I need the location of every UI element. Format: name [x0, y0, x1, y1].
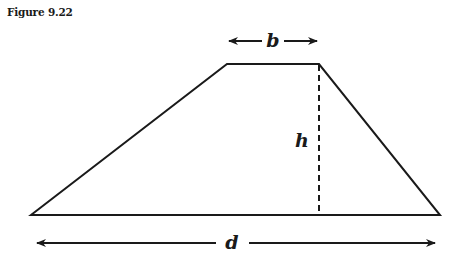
label-b: b [266, 29, 279, 51]
label-d: d [225, 231, 238, 253]
label-h: h [295, 129, 309, 151]
trapezoid-shape [31, 64, 440, 215]
trapezoid-diagram: b h d [0, 0, 461, 270]
